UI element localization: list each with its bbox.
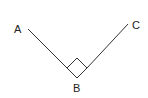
right-angle-marker [67,58,87,78]
point-label-c: C [132,19,140,31]
segment-ba [28,29,67,68]
point-label-a: A [14,23,22,35]
right-angle-diagram: A B C [0,0,148,98]
segment-bc [87,24,128,68]
point-label-b: B [73,82,80,94]
